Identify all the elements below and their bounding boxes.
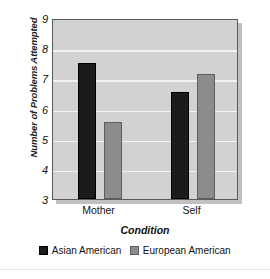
bar (171, 92, 189, 199)
page-edge-artifact (0, 269, 270, 279)
plot-area (52, 19, 238, 200)
y-tick-label: 3 (30, 195, 48, 206)
bar (104, 122, 122, 199)
legend-swatch-icon (39, 246, 48, 255)
legend: Asian AmericanEuropean American (0, 245, 270, 256)
y-tick-label: 8 (30, 44, 48, 55)
y-tick-label: 7 (30, 74, 48, 85)
y-tick-label: 4 (30, 164, 48, 175)
bar (78, 63, 96, 199)
legend-entry: European American (130, 245, 230, 256)
x-axis-tick-labels: MotherSelf (52, 204, 238, 220)
legend-swatch-icon (130, 246, 139, 255)
y-tick-label: 6 (30, 104, 48, 115)
legend-label: European American (143, 245, 231, 256)
bar-chart-figure: Number of Problems Attempted 9876543 Mot… (0, 0, 270, 279)
x-axis-title: Condition (52, 224, 238, 236)
x-tick-label: Mother (82, 204, 115, 216)
x-tick-label: Self (182, 204, 200, 216)
legend-entry: Asian American (39, 245, 121, 256)
y-tick-label: 5 (30, 134, 48, 145)
legend-label: Asian American (52, 245, 121, 256)
gridline (53, 50, 237, 52)
y-tick-label: 9 (30, 14, 48, 25)
bar (197, 74, 215, 199)
y-axis-tick-labels: 9876543 (30, 19, 48, 200)
